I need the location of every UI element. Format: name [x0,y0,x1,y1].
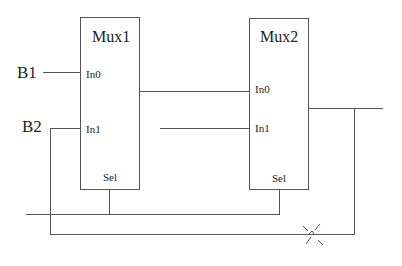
mux1-sel-label: Sel [103,171,117,183]
mux1-title: Mux1 [92,28,130,45]
b1-label: B1 [17,63,37,82]
mux2-in0-label: In0 [255,83,270,95]
b2-label: B2 [22,117,42,136]
mux2-in1-label: In1 [255,122,270,134]
mux2-sel-label: Sel [272,172,286,184]
mux-schematic: Mux1 In0 In1 Sel Mux2 In0 In1 Sel B1 B2 [0,0,402,266]
mux1-in1-label: In1 [86,123,101,135]
mux2-title: Mux2 [260,28,298,45]
mux1-block: Mux1 In0 In1 Sel [81,18,140,190]
mux1-in0-label: In0 [86,68,101,80]
mux2-block: Mux2 In0 In1 Sel [250,19,309,190]
